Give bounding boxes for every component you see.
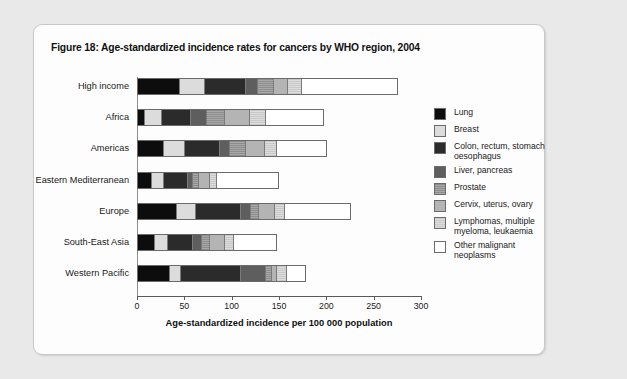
- bar-segment: [245, 141, 265, 156]
- bar-row: [137, 203, 351, 220]
- legend-swatch-icon: [434, 183, 446, 195]
- x-axis-tick: [326, 297, 327, 300]
- bar-segment: [198, 173, 209, 188]
- bar-segment: [195, 204, 240, 219]
- bar-segment: [301, 79, 398, 94]
- bar-segment: [176, 204, 195, 219]
- bar-segment: [258, 204, 274, 219]
- legend-item[interactable]: Lung: [434, 107, 554, 120]
- legend-item[interactable]: Colon, rectum, stomachoesophagus: [434, 141, 554, 161]
- bar-segment: [257, 79, 273, 94]
- x-axis-tick: [421, 297, 422, 300]
- bar-segment: [276, 266, 285, 281]
- legend-item[interactable]: Breast: [434, 124, 554, 137]
- x-axis-tick-label: 100: [224, 301, 239, 311]
- bar-row: [137, 234, 277, 251]
- bar-segment: [216, 173, 278, 188]
- bar-segment: [206, 110, 224, 125]
- legend-swatch-icon: [434, 125, 446, 137]
- legend-item[interactable]: Lymphomas, multiplemyeloma, leukaemia: [434, 216, 554, 236]
- y-axis-label-high-income: High income: [0, 81, 129, 91]
- bar-row: [137, 265, 306, 282]
- bar-segment: [179, 79, 203, 94]
- bar-segment: [180, 266, 240, 281]
- bar-segment: [274, 204, 284, 219]
- bar-segment: [209, 173, 216, 188]
- legend-label: Cervix, uterus, ovary: [454, 199, 533, 210]
- legend-swatch-icon: [434, 200, 446, 212]
- y-axis-label-americas: Americas: [0, 143, 129, 153]
- legend-item[interactable]: Liver, pancreas: [434, 165, 554, 178]
- chart-legend: LungBreastColon, rectum, stomachoesophag…: [434, 107, 554, 265]
- bar-segment: [161, 110, 189, 125]
- bar-segment: [286, 266, 305, 281]
- bar-segment: [240, 204, 249, 219]
- bar-segment: [209, 235, 224, 250]
- bar-segment: [264, 141, 275, 156]
- legend-label: Prostate: [454, 182, 486, 193]
- bar-segment: [190, 110, 207, 125]
- y-axis-label-south-east-asia: South-East Asia: [0, 237, 129, 247]
- bar-segment: [265, 110, 323, 125]
- bar-segment: [233, 235, 276, 250]
- bar-segment: [167, 235, 192, 250]
- bar-row: [137, 78, 398, 95]
- bar-segment: [163, 141, 184, 156]
- bar-segment: [245, 79, 257, 94]
- x-axis-tick: [232, 297, 233, 300]
- bar-segment: [192, 235, 201, 250]
- bar-segment: [276, 141, 327, 156]
- bar-row: [137, 140, 327, 157]
- legend-item[interactable]: Cervix, uterus, ovary: [434, 199, 554, 212]
- legend-label: Colon, rectum, stomachoesophagus: [454, 141, 545, 161]
- bar-segment: [240, 266, 265, 281]
- legend-label: Breast: [454, 124, 479, 135]
- y-axis-label-europe: Europe: [0, 206, 129, 216]
- bar-segment: [287, 79, 300, 94]
- x-axis-tick-label: 0: [135, 301, 140, 311]
- y-axis-category-labels: High incomeAfricaAmericasEastern Mediter…: [0, 77, 129, 296]
- x-axis-tick: [137, 297, 138, 300]
- y-axis-label-africa: Africa: [0, 112, 129, 122]
- x-axis-tick: [374, 297, 375, 300]
- bar-segment: [138, 141, 163, 156]
- bar-segment: [138, 173, 151, 188]
- bar-segment: [144, 110, 162, 125]
- legend-label: Lymphomas, multiplemyeloma, leukaemia: [454, 216, 535, 236]
- bar-segment: [151, 173, 163, 188]
- legend-swatch-icon: [434, 217, 446, 229]
- legend-swatch-icon: [434, 142, 446, 154]
- bar-segment: [219, 141, 228, 156]
- bar-segment: [250, 204, 258, 219]
- legend-swatch-icon: [434, 166, 446, 178]
- bar-segment: [138, 235, 154, 250]
- legend-swatch-icon: [434, 241, 446, 253]
- legend-label: Other malignant neoplasms: [454, 240, 554, 260]
- x-axis-tick-label: 150: [272, 301, 287, 311]
- x-axis-tick-label: 50: [179, 301, 189, 311]
- bar-segment: [204, 79, 245, 94]
- x-axis-tick-label: 250: [366, 301, 381, 311]
- bar-segment: [169, 266, 180, 281]
- legend-label: Liver, pancreas: [454, 165, 512, 176]
- y-axis-label-western-pacific: Western Pacific: [0, 268, 129, 278]
- figure-title: Figure 18: Age-standardized incidence ra…: [51, 42, 420, 53]
- bar-segment: [273, 79, 287, 94]
- legend-item[interactable]: Prostate: [434, 182, 554, 195]
- x-axis-tick-label: 300: [414, 301, 429, 311]
- bar-row: [137, 109, 324, 126]
- x-axis-title: Age-standardized incidence per 100 000 p…: [77, 318, 481, 328]
- bar-segment: [154, 235, 167, 250]
- figure-panel: Figure 18: Age-standardized incidence ra…: [33, 24, 545, 355]
- bar-segment: [184, 141, 220, 156]
- bar-segment: [138, 79, 179, 94]
- legend-label: Lung: [454, 107, 473, 118]
- y-axis-label-eastern-mediterranean: Eastern Mediterranean: [0, 175, 129, 185]
- legend-item[interactable]: Other malignant neoplasms: [434, 240, 554, 260]
- bar-row: [137, 172, 279, 189]
- legend-swatch-icon: [434, 108, 446, 120]
- x-axis-tick-label: 200: [319, 301, 334, 311]
- bar-segment: [249, 110, 265, 125]
- bar-segment: [224, 235, 233, 250]
- bar-segment: [201, 235, 208, 250]
